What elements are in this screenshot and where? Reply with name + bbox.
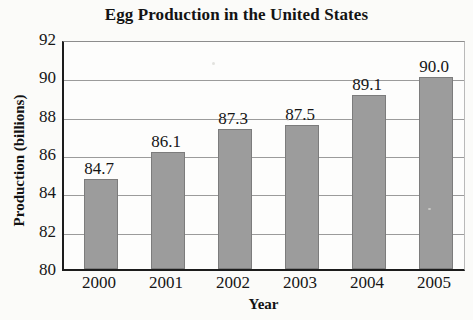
bar-value-label: 87.3 [203,109,263,129]
y-tick-label: 84 [16,183,56,203]
bar [285,125,319,269]
x-tick-label: 2005 [404,273,464,293]
bar [419,77,453,269]
x-tick-label: 2004 [337,273,397,293]
x-axis-title: Year [62,296,465,313]
bar-chart-figure: Egg Production in the United States Prod… [0,0,473,320]
bar-value-label: 89.1 [337,75,397,95]
gridline [64,157,464,158]
x-tick-label: 2000 [69,273,129,293]
scan-speckle [212,62,215,65]
bar-value-label: 84.7 [69,159,129,179]
y-tick-label: 80 [16,260,56,280]
bar [218,129,252,269]
gridline [64,195,464,196]
x-tick-label: 2002 [203,273,263,293]
gridline [64,80,464,81]
y-tick-label: 90 [16,68,56,88]
chart-title: Egg Production in the United States [0,5,473,25]
bar [352,95,386,269]
bar-value-label: 87.5 [270,105,330,125]
x-tick-label: 2001 [136,273,196,293]
scan-speckle [287,119,289,121]
bar [151,152,185,269]
gridline [64,119,464,120]
bar-value-label: 86.1 [136,132,196,152]
bar [84,179,118,269]
y-tick-label: 92 [16,30,56,50]
x-axis-tick-labels: 200020012002200320042005 [62,273,465,295]
y-tick-label: 82 [16,222,56,242]
scan-speckle [428,208,431,210]
bar-value-label: 90.0 [404,57,464,77]
x-tick-label: 2003 [270,273,330,293]
y-tick-label: 88 [16,107,56,127]
gridline [64,234,464,235]
y-tick-label: 86 [16,145,56,165]
